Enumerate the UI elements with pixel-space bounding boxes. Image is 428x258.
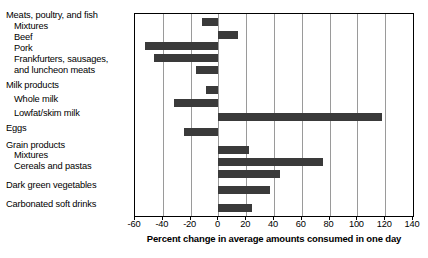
bar-dark-green-vegetables [218, 186, 269, 194]
x-axis-title: Percent change in average amounts consum… [134, 233, 414, 244]
bar-frankfurters [196, 66, 218, 74]
category-label: Pork [14, 43, 33, 53]
category-label: Mixtures [14, 150, 48, 160]
category-label: Cereals and pastas [14, 161, 91, 171]
plot-inner [135, 14, 413, 216]
bar-cereals-and-pastas [218, 170, 279, 178]
gridline [385, 14, 386, 216]
category-label: Lowfat/skim milk [14, 108, 80, 118]
category-label: Frankfurters, sausages, [14, 54, 108, 64]
category-label: Beef [14, 32, 33, 42]
bar-whole-milk [174, 99, 218, 107]
bar-lowfat-skim-milk [218, 113, 382, 121]
chart-figure: Meats, poultry, and fishMixturesBeefPork… [0, 0, 428, 258]
category-label: and luncheon meats [14, 65, 95, 75]
bar-pork [154, 54, 218, 62]
category-label: Mixtures [14, 21, 48, 31]
bar-meats-mixtures [218, 31, 237, 39]
category-label: Whole milk [14, 94, 58, 104]
bar-meats-poultry-and-fish [202, 18, 219, 26]
x-tick-label: 140 [392, 219, 428, 229]
category-label: Dark green vegetables [6, 180, 96, 190]
category-label: Grain products [6, 140, 65, 150]
category-label-column: Meats, poultry, and fishMixturesBeefPork… [0, 0, 134, 216]
category-label: Meats, poultry, and fish [6, 10, 98, 20]
bar-grain-products [218, 146, 249, 154]
category-label: Milk products [6, 80, 59, 90]
bar-eggs [184, 128, 219, 136]
bar-beef [145, 42, 219, 50]
category-label: Eggs [6, 123, 27, 133]
bar-carbonated-soft-drinks [218, 204, 251, 212]
category-label: Carbonated soft drinks [6, 199, 96, 209]
bar-grain-mixtures [218, 158, 322, 166]
bar-milk-products [206, 86, 219, 94]
plot-area [134, 13, 414, 217]
